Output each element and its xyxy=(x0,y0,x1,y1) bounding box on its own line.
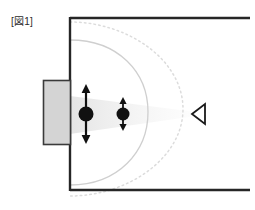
secondary-vibrating-source xyxy=(117,108,130,121)
figure-container: [図1] xyxy=(0,0,255,210)
speaker-cabinet xyxy=(44,81,71,145)
listener-marker-icon xyxy=(192,104,205,124)
primary-vibrating-source xyxy=(79,107,94,122)
diagram-canvas xyxy=(0,0,255,210)
